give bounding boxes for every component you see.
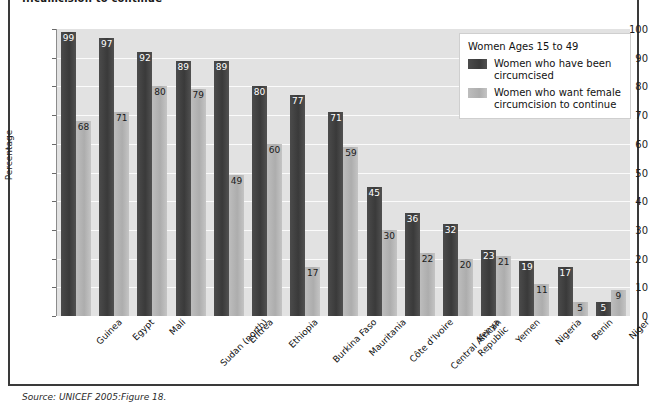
bar-group: 8979 — [172, 29, 210, 316]
bar[interactable]: 17 — [558, 267, 573, 316]
bar-value-label: 80 — [152, 87, 167, 97]
legend-entry-circumcised: Women who have been circumcised — [468, 58, 622, 81]
legend-title: Women Ages 15 to 49 — [468, 41, 622, 52]
bar[interactable]: 68 — [76, 121, 91, 316]
x-axis-tick-labels: GuineaEgyptMaliSudan (north)EritreaEthio… — [57, 317, 630, 383]
bar[interactable]: 71 — [328, 112, 343, 316]
y-tick-mark-20 — [52, 259, 56, 260]
y-tick-mark-80 — [52, 86, 56, 87]
bar-value-label: 23 — [481, 251, 496, 261]
bar-group: 9771 — [95, 29, 133, 316]
x-tick-label: Côte d'Ivoire — [407, 317, 454, 364]
legend-swatch-want-continue — [468, 88, 487, 98]
bar-value-label: 49 — [229, 176, 244, 186]
bar-value-label: 19 — [519, 262, 534, 272]
bar-group: 3622 — [401, 29, 439, 316]
figure-title: ...cumcision to continue — [22, 0, 162, 2]
x-tick-label: Benin — [589, 317, 614, 342]
bar-group: 4530 — [363, 29, 401, 316]
bar-value-label: 20 — [458, 260, 473, 270]
y-tick-mark-70 — [52, 115, 56, 116]
bar-group: 9968 — [57, 29, 95, 316]
bar-value-label: 89 — [176, 62, 191, 72]
bar[interactable]: 11 — [534, 284, 549, 316]
bar[interactable]: 22 — [420, 253, 435, 316]
y-tick-mark-10 — [52, 287, 56, 288]
x-tick-label: Yemen — [514, 317, 542, 345]
y-tick-mark-50 — [52, 173, 56, 174]
bar[interactable]: 97 — [99, 38, 114, 316]
x-tick-label: Nigeria — [553, 317, 583, 347]
bar[interactable]: 79 — [191, 89, 206, 316]
x-tick-label: Ethiopia — [287, 317, 320, 350]
bar-value-label: 71 — [328, 113, 343, 123]
bar[interactable]: 5 — [596, 302, 611, 316]
bar-value-label: 32 — [443, 225, 458, 235]
bar-value-label: 22 — [420, 254, 435, 264]
bar-value-label: 5 — [573, 303, 588, 313]
bar-value-label: 17 — [305, 268, 320, 278]
bar-value-label: 11 — [534, 285, 549, 295]
bar[interactable]: 19 — [519, 261, 534, 316]
y-tick-mark-60 — [52, 144, 56, 145]
y-tick-mark-100 — [52, 29, 56, 30]
legend-label-want-continue: Women who want female circumcision to co… — [494, 87, 622, 110]
bar-value-label: 45 — [367, 188, 382, 198]
bar[interactable]: 5 — [573, 302, 588, 316]
x-tick-label: Burkina Faso — [331, 317, 379, 365]
x-tick-label: Central African Republic — [449, 317, 511, 379]
bar-value-label: 77 — [290, 96, 305, 106]
x-tick-label: Mali — [167, 317, 187, 337]
bar-value-label: 60 — [267, 145, 282, 155]
bar[interactable]: 45 — [367, 187, 382, 316]
bar-value-label: 97 — [99, 39, 114, 49]
bar-value-label: 59 — [343, 148, 358, 158]
bar[interactable]: 49 — [229, 175, 244, 316]
x-tick-label: Guinea — [94, 317, 124, 347]
bar[interactable]: 60 — [267, 144, 282, 316]
bar[interactable]: 36 — [405, 213, 420, 316]
bar[interactable]: 77 — [290, 95, 305, 316]
bar[interactable]: 92 — [137, 52, 152, 316]
frame-border-bottom — [8, 384, 639, 386]
bar[interactable]: 9 — [611, 290, 626, 316]
bar-value-label: 92 — [137, 53, 152, 63]
bar-value-label: 68 — [76, 122, 91, 132]
bar-value-label: 79 — [191, 90, 206, 100]
bar[interactable]: 80 — [252, 86, 267, 316]
bar[interactable]: 99 — [61, 32, 76, 316]
bar-value-label: 9 — [611, 291, 626, 301]
y-tick-mark-40 — [52, 201, 56, 202]
bar[interactable]: 17 — [305, 267, 320, 316]
bar[interactable]: 59 — [343, 147, 358, 316]
bar[interactable]: 32 — [443, 224, 458, 316]
bar-group: 7159 — [324, 29, 362, 316]
bar[interactable]: 89 — [176, 61, 191, 316]
frame-border-left — [8, 0, 10, 386]
bar[interactable]: 23 — [481, 250, 496, 316]
bar[interactable]: 30 — [382, 230, 397, 316]
legend-entry-want-continue: Women who want female circumcision to co… — [468, 87, 622, 110]
bar[interactable]: 89 — [214, 61, 229, 316]
bar-group: 8060 — [248, 29, 286, 316]
bar-value-label: 30 — [382, 231, 397, 241]
bar-value-label: 36 — [405, 214, 420, 224]
bar-value-label: 80 — [252, 87, 267, 97]
bar-value-label: 5 — [596, 303, 611, 313]
bar-group: 7717 — [286, 29, 324, 316]
bar-value-label: 89 — [214, 62, 229, 72]
bar[interactable]: 21 — [496, 256, 511, 316]
y-tick-mark-0 — [52, 316, 56, 317]
y-tick-mark-90 — [52, 58, 56, 59]
bar-value-label: 21 — [496, 257, 511, 267]
x-tick-label: Egypt — [131, 317, 156, 342]
y-axis-title: Percentage — [4, 130, 14, 181]
bar-value-label: 17 — [558, 268, 573, 278]
bar[interactable]: 20 — [458, 259, 473, 316]
bar-value-label: 99 — [61, 33, 76, 43]
bar-group: 8949 — [210, 29, 248, 316]
bar[interactable]: 71 — [114, 112, 129, 316]
bar[interactable]: 80 — [152, 86, 167, 316]
y-tick-mark-30 — [52, 230, 56, 231]
